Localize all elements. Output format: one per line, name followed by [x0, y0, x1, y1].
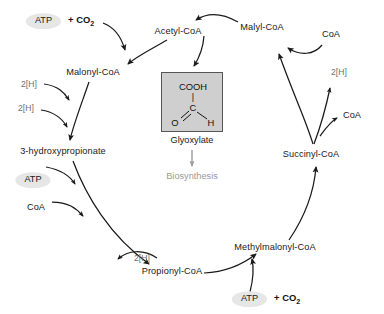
atp-node-left: ATP [15, 172, 50, 188]
arrow-2h-second-reduction [41, 110, 67, 127]
arrow-acetyl-branch-to-glyoxylate [194, 36, 204, 66]
arrow-methylmalonyl-to-succinyl [289, 167, 316, 240]
co2-label-top: + CO2 [68, 15, 94, 28]
glyoxylate-structure-box: COOH | C O H [161, 72, 223, 132]
metabolite-malyl-coa: Malyl-CoA [240, 23, 283, 32]
biosynthesis-label: Biosynthesis [166, 171, 218, 181]
arrow-2h-released [314, 88, 330, 144]
metabolite-malonyl-coa: Malonyl-CoA [66, 68, 120, 77]
cofactor-2h-second: 2[H] [18, 103, 34, 113]
pathway-diagram: COOH | C O H Glyoxylate Biosynthesis Ace… [0, 0, 384, 314]
atp-node-bottom: ATP + CO2 [232, 291, 300, 307]
cofactor-coa-top-right: CoA [322, 30, 340, 39]
cofactor-2h-fourth: 2[H] [331, 67, 347, 77]
arrow-acetyl-to-malonyl [128, 40, 167, 64]
arrow-atp-co2-into-methylmalonyl [250, 259, 253, 292]
metabolite-3-hydroxypropionate: 3-hydroxypropionate [20, 147, 106, 156]
arrow-coa-into-malyl [288, 45, 322, 53]
arrow-malyl-to-acetyl [196, 15, 238, 22]
cofactor-2h-third: 2[H] [134, 253, 150, 263]
atp-label-left: ATP [15, 172, 50, 188]
atp-node-top: ATP + CO2 [26, 13, 94, 29]
co2-label-bottom: + CO2 [274, 293, 300, 306]
arrow-coa-into-propionyl-path [52, 202, 83, 216]
arrow-succinyl-to-malyl [279, 54, 313, 144]
arrow-malonyl-to-hydroxypropionate [70, 82, 89, 140]
arrow-hydroxypropionate-to-propionyl [73, 161, 149, 264]
cofactor-coa-left: CoA [27, 203, 45, 212]
metabolite-propionyl-coa: Propionyl-CoA [142, 267, 203, 276]
metabolite-succinyl-coa: Succinyl-CoA [283, 150, 339, 159]
cofactor-coa-mid-right: CoA [343, 111, 361, 120]
glyoxylate-bond-lines [162, 73, 224, 133]
atp-label-top: ATP [26, 13, 61, 29]
metabolite-methylmalonyl-coa: Methylmalonyl-CoA [234, 243, 315, 252]
arrow-atp-co2-into-malonyl [103, 23, 125, 50]
arrow-2h-first-reduction [44, 84, 69, 100]
arrow-propionyl-to-methylmalonyl [204, 254, 256, 273]
atp-label-bottom: ATP [232, 291, 267, 307]
arrow-coa-released-mid [320, 118, 337, 136]
cofactor-2h-first: 2[H] [21, 79, 37, 89]
metabolite-acetyl-coa: Acetyl-CoA [155, 27, 202, 36]
glyoxylate-label: Glyoxylate [171, 135, 214, 145]
